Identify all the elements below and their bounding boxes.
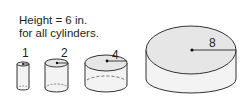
cylinder-1: 1 <box>17 46 29 90</box>
cylinder-1-label: 1 <box>22 46 29 60</box>
cylinder-8-label: 8 <box>209 36 216 50</box>
cylinders-diagram: 1 2 4 8 <box>0 0 250 108</box>
cylinder-2: 2 <box>45 46 68 92</box>
cylinder-8: 8 <box>146 26 236 93</box>
cylinder-4-label: 4 <box>112 48 119 62</box>
cylinder-2-label: 2 <box>61 46 68 60</box>
cylinder-4: 4 <box>85 48 127 92</box>
